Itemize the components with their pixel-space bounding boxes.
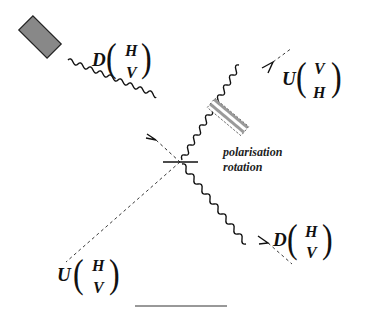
svg-text:V: V (306, 244, 318, 261)
label-upper-right-U-VH: U ( V H ) (282, 55, 342, 101)
label-input-D-HV: D ( H V ) (91, 36, 152, 81)
svg-text:(: ( (287, 217, 298, 261)
label-lower-left-U-HV: U ( H V ) (57, 252, 120, 296)
svg-text:): ) (331, 55, 342, 99)
svg-text:D: D (272, 229, 287, 250)
svg-text:rotation: rotation (223, 160, 263, 174)
svg-text:): ) (141, 36, 152, 80)
svg-text:H: H (312, 84, 326, 101)
rotator-caption: polarisation rotation (222, 145, 283, 174)
svg-text:H: H (91, 257, 105, 274)
svg-text:): ) (322, 217, 333, 261)
lower-left-path (66, 162, 180, 262)
svg-text:H: H (304, 223, 318, 240)
upper-right-beam (181, 48, 292, 160)
svg-text:U: U (282, 68, 297, 89)
input-beam (68, 59, 180, 162)
svg-text:H: H (124, 42, 138, 59)
svg-text:V: V (314, 60, 326, 77)
svg-text:(: ( (296, 55, 307, 99)
svg-text:): ) (109, 252, 120, 296)
svg-text:D: D (91, 49, 106, 70)
svg-text:U: U (57, 264, 72, 285)
svg-text:(: ( (73, 252, 84, 296)
source-block (19, 16, 61, 58)
label-lower-right-D-HV: D ( H V ) (272, 217, 333, 261)
polarisation-rotator (207, 98, 248, 135)
svg-text:V: V (126, 64, 138, 81)
svg-text:polarisation: polarisation (222, 145, 283, 159)
diagram-canvas: D ( H V ) U ( V H ) polarisation rotatio… (0, 0, 365, 326)
svg-text:V: V (93, 279, 105, 296)
svg-text:(: ( (106, 36, 117, 80)
